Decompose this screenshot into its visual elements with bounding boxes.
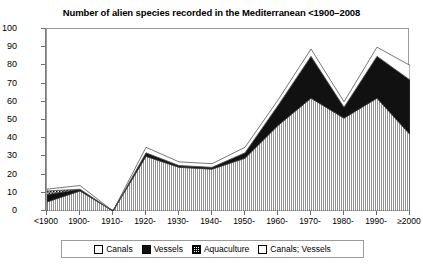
aquaculture-swatch-icon bbox=[192, 245, 201, 254]
chart-legend: CanalsVesselsAquacultureCanals; Vessels bbox=[61, 240, 364, 258]
y-axis-tick-label: 60 bbox=[0, 96, 17, 105]
y-axis-tick-label: 30 bbox=[0, 151, 17, 160]
y-axis-tick-label: 90 bbox=[0, 42, 17, 51]
y-axis-tick-label: 0 bbox=[0, 206, 17, 215]
x-axis-tick-mark bbox=[244, 211, 245, 215]
x-axis-tick-mark bbox=[211, 211, 212, 215]
canals-swatch-icon bbox=[94, 245, 103, 254]
legend-item[interactable]: Canals; Vessels bbox=[258, 245, 330, 254]
y-axis: 0102030405060708090100 bbox=[0, 0, 46, 269]
x-axis-tick-mark bbox=[310, 211, 311, 215]
legend-item[interactable]: Aquaculture bbox=[192, 245, 249, 254]
legend-item[interactable]: Vessels bbox=[142, 245, 183, 254]
x-axis-tick-label: ≥2000 bbox=[387, 217, 423, 226]
y-axis-tick-label: 100 bbox=[0, 24, 17, 33]
legend-item[interactable]: Canals bbox=[94, 245, 132, 254]
chart-title: Number of alien species recorded in the … bbox=[0, 7, 423, 18]
x-axis-tick-mark bbox=[79, 211, 80, 215]
plot-area bbox=[46, 28, 409, 210]
y-axis-tick-label: 10 bbox=[0, 187, 17, 196]
x-axis-tick-mark bbox=[409, 211, 410, 215]
stacked-area-svg bbox=[47, 29, 410, 211]
legend-item-label: Canals bbox=[106, 245, 132, 254]
legend-item-label: Canals; Vessels bbox=[270, 245, 330, 254]
x-axis-tick-mark bbox=[112, 211, 113, 215]
chart-figure: Number of alien species recorded in the … bbox=[0, 0, 423, 269]
legend-item-label: Aquaculture bbox=[204, 245, 249, 254]
vessels-swatch-icon bbox=[142, 245, 151, 254]
y-axis-tick-label: 70 bbox=[0, 78, 17, 87]
legend-item-label: Vessels bbox=[154, 245, 183, 254]
area-series-canals bbox=[47, 98, 410, 211]
x-axis-tick-mark bbox=[343, 211, 344, 215]
x-axis-tick-mark bbox=[178, 211, 179, 215]
y-axis-tick-label: 40 bbox=[0, 133, 17, 142]
x-axis-tick-mark bbox=[376, 211, 377, 215]
y-axis-tick-label: 80 bbox=[0, 60, 17, 69]
x-axis-tick-mark bbox=[145, 211, 146, 215]
x-axis-tick-mark bbox=[46, 211, 47, 215]
y-axis-tick-label: 50 bbox=[0, 115, 17, 124]
x-axis-tick-mark bbox=[277, 211, 278, 215]
canals-vessels-swatch-icon bbox=[258, 245, 267, 254]
y-axis-tick-label: 20 bbox=[0, 169, 17, 178]
